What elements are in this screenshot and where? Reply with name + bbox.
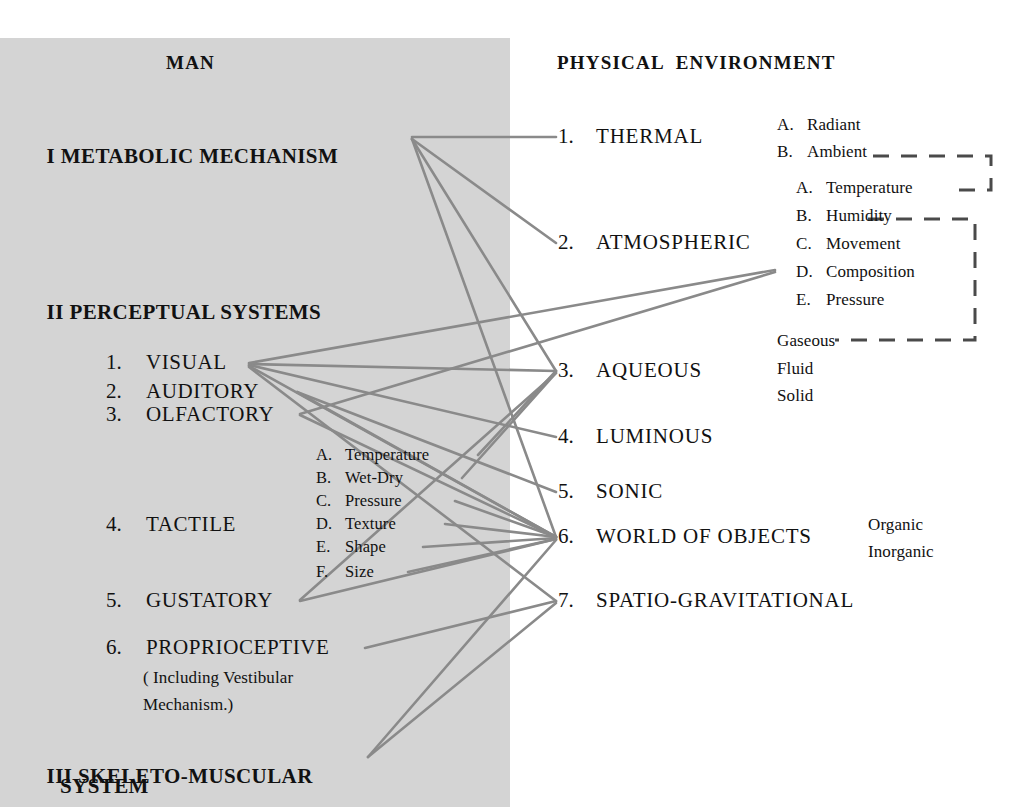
env-label-aqueous[interactable]: AQUEOUS xyxy=(596,360,702,381)
thermal-sub-letter-b: B. xyxy=(777,143,793,160)
page-title-man: MAN xyxy=(166,53,215,72)
env-num-5: 5. xyxy=(558,481,574,502)
sense-label-olfactory[interactable]: OLFACTORY xyxy=(146,404,274,425)
link-metabolic-mechanism-to-atmospheric xyxy=(412,139,556,243)
objects-sub-inorganic[interactable]: Inorganic xyxy=(868,543,934,560)
sense-label-proprioceptive[interactable]: PROPRIOCEPTIVE xyxy=(146,637,329,658)
atmospheric-sub-composition[interactable]: Composition xyxy=(826,263,915,280)
link-skeleto-muscular-to-spatio-gravitational xyxy=(368,603,556,757)
env-num-6: 6. xyxy=(558,526,574,547)
tactile-sub-shape[interactable]: Shape xyxy=(345,539,386,556)
atmospheric-sub-letter-e: E. xyxy=(796,291,811,308)
tactile-sub-pressure[interactable]: Pressure xyxy=(345,493,402,510)
link-visual-to-atmospheric-composition xyxy=(249,270,775,363)
sense-label-gustatory[interactable]: GUSTATORY xyxy=(146,590,273,611)
env-label-spatio-gravitational[interactable]: SPATIO-GRAVITATIONAL xyxy=(596,590,854,611)
atmospheric-sub-letter-c: C. xyxy=(796,235,812,252)
thermal-sub-ambient[interactable]: Ambient xyxy=(807,143,867,160)
man-section-label-metabolic: METABOLIC MECHANISM xyxy=(61,144,338,168)
tactile-sub-wet-dry[interactable]: Wet-Dry xyxy=(345,470,403,487)
tactile-sub-letter-a: A. xyxy=(316,447,332,464)
man-section-label-perceptual: PERCEPTUAL SYSTEMS xyxy=(69,300,321,324)
link-gustatory-to-objects xyxy=(300,539,556,601)
env-label-sonic[interactable]: SONIC xyxy=(596,481,663,502)
sense-label-visual[interactable]: VISUAL xyxy=(146,352,227,373)
link-proprioceptive-to-spatio-gravitational xyxy=(365,601,556,648)
env-num-1: 1. xyxy=(558,126,574,147)
link-skeleto-muscular-to-objects xyxy=(368,540,556,757)
diagram-canvas: MAN PHYSICAL ENVIRONMENT I METABOLIC MEC… xyxy=(0,0,1019,807)
page-title-physical-environment: PHYSICAL ENVIRONMENT xyxy=(557,53,836,72)
sense-num-2: 2. xyxy=(106,381,122,402)
tactile-sub-temperature[interactable]: Temperature xyxy=(345,447,429,464)
env-num-2: 2. xyxy=(558,232,574,253)
env-label-world-of-objects[interactable]: WORLD OF OBJECTS xyxy=(596,526,812,547)
atmospheric-sub-humidity[interactable]: Humidity xyxy=(826,207,892,224)
man-section-numeral-ii: II xyxy=(47,300,64,324)
atmospheric-sub-letter-a: A. xyxy=(796,179,813,196)
objects-sub-organic[interactable]: Organic xyxy=(868,516,923,533)
env-num-4: 4. xyxy=(558,426,574,447)
proprioceptive-note-line-1: ( Including Vestibular xyxy=(143,669,293,686)
atmospheric-sub-pressure[interactable]: Pressure xyxy=(826,291,884,308)
tactile-sub-letter-b: B. xyxy=(316,470,331,487)
aqueous-sub-fluid[interactable]: Fluid xyxy=(777,360,813,377)
sense-num-4: 4. xyxy=(106,514,122,535)
env-label-atmospheric[interactable]: ATMOSPHERIC xyxy=(596,232,751,253)
atmospheric-sub-letter-d: D. xyxy=(796,263,813,280)
env-label-thermal[interactable]: THERMAL xyxy=(596,126,703,147)
sense-num-3: 3. xyxy=(106,404,122,425)
sense-label-tactile[interactable]: TACTILE xyxy=(146,514,236,535)
tactile-sub-texture[interactable]: Texture xyxy=(345,516,396,533)
tactile-sub-size[interactable]: Size xyxy=(345,564,374,581)
tactile-sub-letter-f: F. xyxy=(316,564,328,581)
tactile-sub-letter-d: D. xyxy=(316,516,332,533)
atmospheric-sub-letter-b: B. xyxy=(796,207,812,224)
man-section-numeral-i: I xyxy=(47,144,56,168)
link-tactile-wet-dry-to-aqueous xyxy=(462,373,556,478)
aqueous-sub-solid[interactable]: Solid xyxy=(777,387,813,404)
env-num-3: 3. xyxy=(558,360,574,381)
sense-num-5: 5. xyxy=(106,590,122,611)
man-section-skeleto-muscular-line2: SYSTEM xyxy=(60,776,149,797)
atmospheric-sub-temperature[interactable]: Temperature xyxy=(826,179,913,196)
proprioceptive-note-line-2: Mechanism.) xyxy=(143,696,233,713)
sense-num-6: 6. xyxy=(106,637,122,658)
link-visual-to-aqueous xyxy=(249,364,556,371)
env-label-luminous[interactable]: LUMINOUS xyxy=(596,426,713,447)
atmospheric-sub-movement[interactable]: Movement xyxy=(826,235,900,252)
env-num-7: 7. xyxy=(558,590,574,611)
man-section-metabolic-mechanism: I METABOLIC MECHANISM xyxy=(24,125,338,188)
sense-label-auditory[interactable]: AUDITORY xyxy=(146,381,259,402)
sense-num-1: 1. xyxy=(106,352,122,373)
tactile-sub-letter-c: C. xyxy=(316,493,331,510)
tactile-sub-letter-e: E. xyxy=(316,539,330,556)
thermal-sub-letter-a: A. xyxy=(777,116,794,133)
aqueous-sub-gaseous[interactable]: Gaseous xyxy=(777,332,835,349)
thermal-sub-radiant[interactable]: Radiant xyxy=(807,116,861,133)
man-section-perceptual-systems: II PERCEPTUAL SYSTEMS xyxy=(24,281,321,344)
